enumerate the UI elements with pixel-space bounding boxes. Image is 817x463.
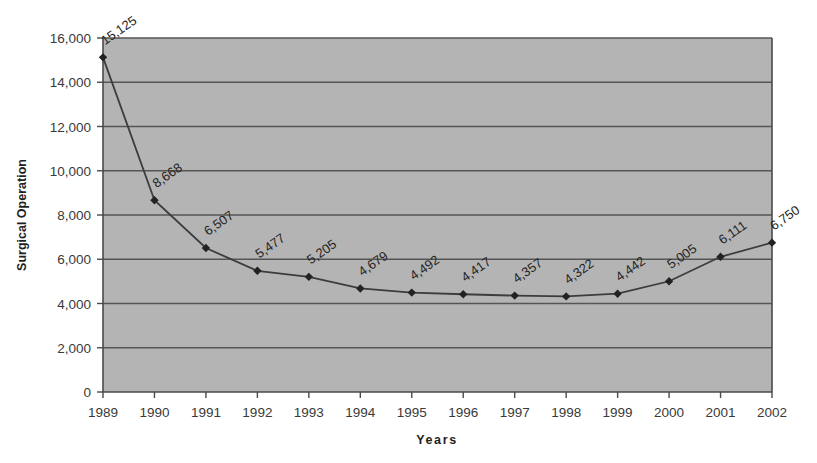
y-axis-ticks: 02,0004,0006,0008,00010,00012,00014,0001… (50, 31, 103, 400)
x-axis-ticks: 1989199019911992199319941995199619971998… (88, 392, 787, 420)
x-tick-label: 1996 (448, 405, 478, 420)
x-axis-title: Years (416, 433, 457, 447)
x-tick-label: 2002 (757, 405, 787, 420)
y-tick-label: 0 (83, 385, 91, 400)
y-tick-label: 16,000 (50, 31, 91, 46)
x-tick-label: 1989 (88, 405, 118, 420)
x-tick-label: 2000 (654, 405, 684, 420)
x-tick-label: 1997 (500, 405, 530, 420)
y-axis-title: Surgical Operation (15, 159, 29, 271)
y-tick-label: 2,000 (57, 341, 91, 356)
x-tick-label: 1993 (294, 405, 324, 420)
y-tick-label: 8,000 (57, 208, 91, 223)
x-tick-label: 1990 (139, 405, 169, 420)
y-tick-label: 10,000 (50, 164, 91, 179)
x-tick-label: 2001 (706, 405, 736, 420)
x-tick-label: 1998 (551, 405, 581, 420)
x-tick-label: 1994 (345, 405, 376, 420)
x-tick-label: 1991 (191, 405, 221, 420)
chart-container: 02,0004,0006,0008,00010,00012,00014,0001… (0, 0, 817, 463)
y-tick-label: 6,000 (57, 252, 91, 267)
x-tick-label: 1995 (397, 405, 427, 420)
x-tick-label: 1999 (603, 405, 633, 420)
y-tick-label: 4,000 (57, 297, 91, 312)
y-tick-label: 12,000 (50, 120, 91, 135)
y-tick-label: 14,000 (50, 75, 91, 90)
x-tick-label: 1992 (242, 405, 272, 420)
line-chart: 02,0004,0006,0008,00010,00012,00014,0001… (0, 0, 817, 463)
